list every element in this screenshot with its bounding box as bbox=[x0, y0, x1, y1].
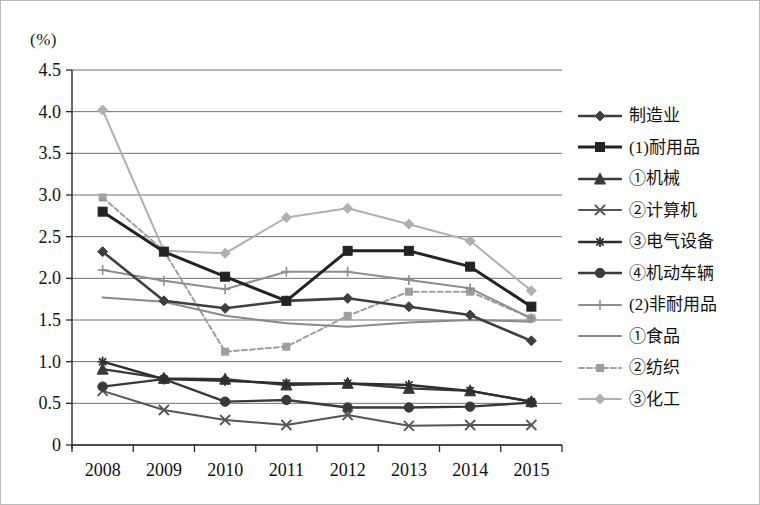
legend-label: 制造业 bbox=[629, 107, 680, 124]
legend-item-9[interactable]: ③化工 bbox=[578, 384, 758, 416]
legend-item-3[interactable]: ②计算机 bbox=[578, 195, 758, 227]
y-tick-label: 0.5 bbox=[39, 393, 62, 413]
legend-marker-dashsq-icon bbox=[578, 358, 622, 378]
x-tick-label: 2013 bbox=[391, 460, 427, 480]
legend-label: ④机动车辆 bbox=[629, 265, 714, 282]
x-tick-label: 2011 bbox=[269, 460, 304, 480]
legend-label: (2)非耐用品 bbox=[629, 296, 717, 313]
x-tick-label: 2015 bbox=[513, 460, 549, 480]
chart-legend: 制造业(1)耐用品①机械②计算机③电气设备④机动车辆(2)非耐用品①食品②纺织③… bbox=[578, 100, 758, 415]
y-tick-label: 2.5 bbox=[39, 227, 62, 247]
legend-marker-circle-icon bbox=[578, 263, 622, 283]
series-4 bbox=[98, 357, 537, 407]
legend-item-7[interactable]: ①食品 bbox=[578, 321, 758, 353]
series-line bbox=[103, 369, 532, 402]
legend-label: (1)耐用品 bbox=[629, 139, 700, 156]
legend-marker-asterisk-icon bbox=[578, 232, 622, 252]
legend-marker-diamond-light-icon bbox=[578, 389, 622, 409]
y-tick-label: 0 bbox=[52, 435, 61, 455]
y-tick-label: 1.5 bbox=[39, 310, 62, 330]
legend-marker-triangle-icon bbox=[578, 169, 622, 189]
legend-label: ③化工 bbox=[629, 391, 680, 408]
y-tick-label: 2.0 bbox=[39, 268, 62, 288]
x-tick-label: 2010 bbox=[207, 460, 243, 480]
y-tick-label: 3.0 bbox=[39, 185, 62, 205]
legend-label: ③电气设备 bbox=[629, 233, 714, 250]
y-tick-label: 4.0 bbox=[39, 102, 62, 122]
x-tick-label: 2008 bbox=[85, 460, 121, 480]
legend-item-1[interactable]: (1)耐用品 bbox=[578, 132, 758, 164]
legend-label: ②计算机 bbox=[629, 202, 697, 219]
legend-item-2[interactable]: ①机械 bbox=[578, 163, 758, 195]
legend-label: ②纺织 bbox=[629, 359, 680, 376]
legend-marker-diamond-icon bbox=[578, 106, 622, 126]
legend-label: ①食品 bbox=[629, 328, 680, 345]
series-2 bbox=[97, 363, 537, 407]
legend-marker-plus-icon bbox=[578, 295, 622, 315]
y-tick-label: 3.5 bbox=[39, 143, 62, 163]
data-series-group bbox=[97, 105, 537, 431]
legend-marker-none-icon bbox=[578, 326, 622, 346]
legend-item-6[interactable]: (2)非耐用品 bbox=[578, 289, 758, 321]
legend-item-0[interactable]: 制造业 bbox=[578, 100, 758, 132]
legend-label: ①机械 bbox=[629, 170, 680, 187]
x-tick-label: 2009 bbox=[146, 460, 182, 480]
legend-item-8[interactable]: ②纺织 bbox=[578, 352, 758, 384]
y-tick-label: 4.5 bbox=[39, 60, 62, 80]
y-tick-labels-group: 00.51.01.52.02.53.03.54.04.5 bbox=[39, 60, 62, 455]
legend-item-4[interactable]: ③电气设备 bbox=[578, 226, 758, 258]
x-tick-label: 2012 bbox=[330, 460, 366, 480]
legend-marker-square-icon bbox=[578, 137, 622, 157]
x-tick-labels-group: 20082009201020112012201320142015 bbox=[85, 460, 550, 480]
legend-item-5[interactable]: ④机动车辆 bbox=[578, 258, 758, 290]
y-tick-label: 1.0 bbox=[39, 352, 62, 372]
gridlines-group bbox=[72, 70, 562, 445]
legend-marker-cross-icon bbox=[578, 200, 622, 220]
x-tick-label: 2014 bbox=[452, 460, 488, 480]
